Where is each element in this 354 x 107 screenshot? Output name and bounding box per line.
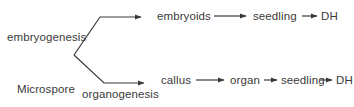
node-label-dh-bottom: DH xyxy=(336,74,353,87)
node-label-organogenesis: organogenesis xyxy=(82,88,159,101)
connector-microspore-to-callus xyxy=(74,55,144,83)
node-label-callus: callus xyxy=(161,74,191,87)
node-label-embryogenesis: embryogenesis xyxy=(7,31,86,44)
node-label-embryoids: embryoids xyxy=(157,10,211,23)
node-label-dh-top: DH xyxy=(321,10,338,23)
node-label-seedling-top: seedling xyxy=(253,10,297,23)
microspore-pathway-diagram: embryogenesis Microspore organogenesis e… xyxy=(0,0,354,107)
node-label-organ: organ xyxy=(230,74,260,87)
node-label-seedling-bottom: seedling xyxy=(281,74,325,87)
node-label-microspore: Microspore xyxy=(17,83,75,96)
